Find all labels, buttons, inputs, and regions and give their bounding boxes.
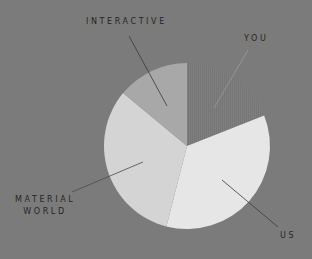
label-us: US — [280, 230, 296, 242]
label-you: YOU — [244, 33, 268, 45]
label-interactive: INTERACTIVE — [86, 16, 167, 28]
label-material-world: MATERIAL WORLD — [15, 194, 75, 218]
label-material-line1: MATERIAL — [15, 194, 75, 206]
pie-slices — [104, 63, 270, 229]
label-material-line2: WORLD — [15, 206, 75, 218]
pie-chart-figure: INTERACTIVE YOU MATERIAL WORLD US — [0, 0, 312, 259]
